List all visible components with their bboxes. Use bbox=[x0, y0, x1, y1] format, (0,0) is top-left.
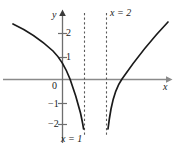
x-axis-label: x bbox=[163, 82, 167, 92]
asymptote-label-x-2: x = 2 bbox=[110, 8, 131, 18]
y-axis bbox=[59, 10, 66, 144]
y-axis-label: y bbox=[52, 10, 56, 20]
curve-right-branch bbox=[108, 22, 168, 129]
x-axis bbox=[3, 76, 173, 83]
y-tick-label-0: 0 bbox=[52, 81, 57, 91]
y-tick-label-2: 2 bbox=[66, 28, 71, 38]
y-tick-label-minus-1: −1 bbox=[48, 99, 59, 109]
function-graph-figure: 2 1 0 −1 −2 y x x = 2 x = 1 bbox=[0, 0, 175, 151]
curve-left-branch bbox=[13, 24, 84, 129]
y-axis-arrowhead bbox=[59, 10, 66, 17]
asymptote-label-x-1: x = 1 bbox=[61, 134, 82, 144]
plot-canvas bbox=[0, 0, 175, 151]
y-tick-label-1: 1 bbox=[66, 52, 71, 62]
y-tick-label-minus-2: −2 bbox=[48, 119, 59, 129]
